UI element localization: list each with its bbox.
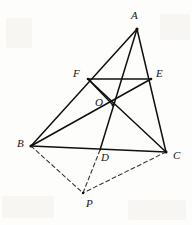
vertex-label-b: B [17,138,24,149]
vertex-dot-O [112,104,115,107]
vertex-dot-A [135,27,138,30]
vertex-label-o: O [95,97,103,108]
vertex-label-p: P [86,198,93,209]
dashed-CP [83,152,166,193]
vertex-label-e: E [156,68,163,79]
vertex-label-f: F [73,68,80,79]
vertex-dot-P [82,192,84,194]
vertex-label-a: A [131,10,138,21]
vertex-dot-F [87,78,90,81]
vertex-dot-E [150,78,153,81]
geometry-canvas [0,0,192,225]
dashed-DP [83,150,100,193]
vertex-label-d: D [101,152,109,163]
geometry-figure: A B C D E F O P [0,0,192,225]
side-BC [31,146,166,152]
vertex-dot-C [164,150,167,153]
vertex-label-c: C [173,150,180,161]
cevian-BE [31,79,151,146]
side-AB [31,29,137,146]
vertex-dot-B [29,144,32,147]
cevian-CF [88,79,166,152]
side-CA [137,29,166,152]
dashed-BP [31,146,83,193]
